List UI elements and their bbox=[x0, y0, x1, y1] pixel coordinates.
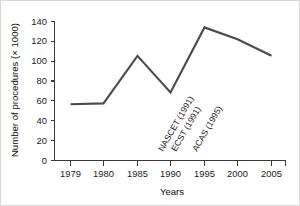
x-tick-label-1985: 1985 bbox=[127, 168, 148, 179]
x-axis-ticks bbox=[71, 161, 286, 166]
x-tick-label-1980: 1980 bbox=[93, 168, 114, 179]
y-tick-label-60: 60 bbox=[37, 95, 47, 106]
y-tick-label-80: 80 bbox=[37, 75, 47, 86]
x-axis-title: Years bbox=[160, 186, 184, 197]
y-tick-label-40: 40 bbox=[37, 115, 47, 126]
x-tick-label-1979: 1979 bbox=[60, 168, 81, 179]
y-tick-label-120: 120 bbox=[31, 35, 47, 46]
x-tick-label-1990: 1990 bbox=[160, 168, 181, 179]
y-tick-label-100: 100 bbox=[31, 55, 47, 66]
x-tick-label-1995: 1995 bbox=[194, 168, 215, 179]
y-axis-title: Number of procedures (× 1000) bbox=[9, 23, 20, 157]
procedures-trend-line bbox=[71, 27, 272, 104]
y-tick-label-140: 140 bbox=[31, 16, 47, 27]
y-tick-label-20: 20 bbox=[37, 135, 47, 146]
x-tick-label-2005: 2005 bbox=[261, 168, 282, 179]
chart-figure: 0 20 40 60 80 100 120 140 1979 1980 1985… bbox=[0, 0, 300, 206]
x-tick-label-2000: 2000 bbox=[227, 168, 248, 179]
y-tick-label-0: 0 bbox=[42, 155, 47, 166]
line-chart-plot: 0 20 40 60 80 100 120 140 1979 1980 1985… bbox=[0, 0, 300, 206]
